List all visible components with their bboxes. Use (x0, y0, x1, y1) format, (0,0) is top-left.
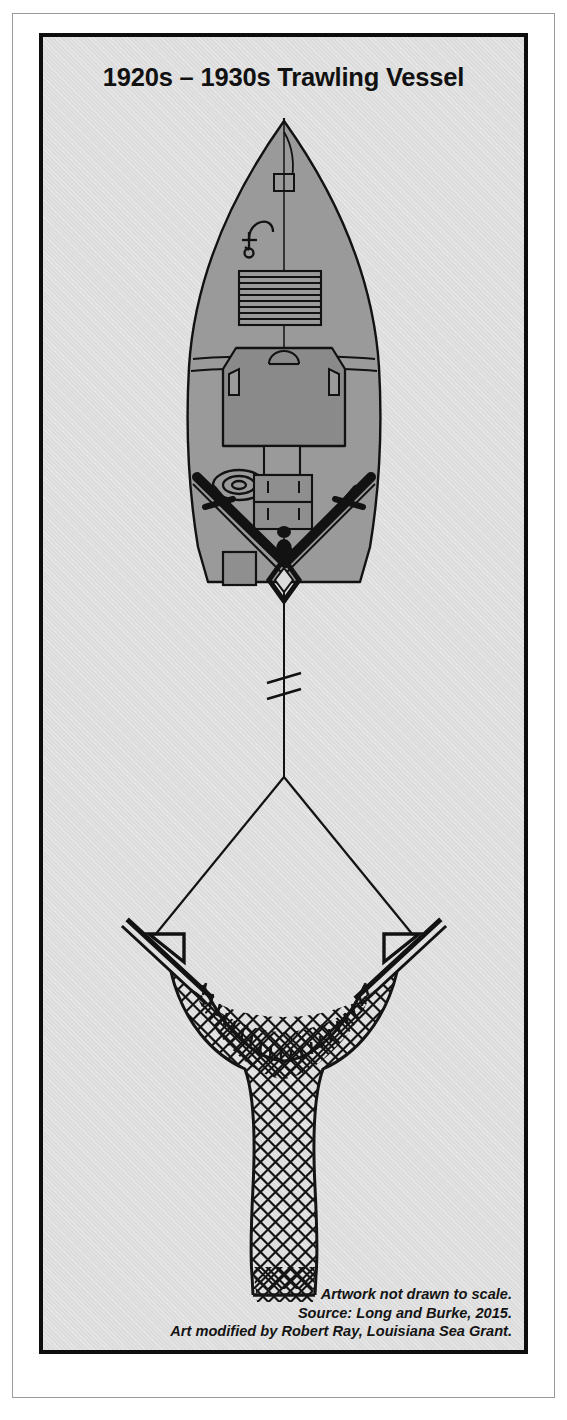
otter-board-port (123, 921, 211, 1003)
figure-plate: 1920s – 1930s Trawling Vessel (43, 37, 524, 1350)
caption-line-3: Art modified by Robert Ray, Louisiana Se… (170, 1322, 512, 1341)
figure-frame: 1920s – 1930s Trawling Vessel (39, 33, 528, 1354)
bridle-lines (155, 777, 413, 935)
deck-hatches (254, 475, 312, 529)
otter-board-starboard (357, 921, 445, 1003)
trawl-net-group (143, 957, 433, 1317)
stern-block-upper (277, 526, 291, 538)
vessel-group (187, 118, 380, 601)
bridle-starboard (284, 777, 413, 935)
engine-housing (264, 446, 300, 475)
tow-cable-group (267, 593, 301, 777)
caption-line-1: Artwork not drawn to scale. (170, 1285, 512, 1304)
bridle-port (155, 777, 284, 935)
caption-line-2: Source: Long and Burke, 2015. (170, 1304, 512, 1323)
net-body (143, 957, 433, 1307)
bow-hatch-icon (239, 271, 321, 325)
trawling-vessel-illustration (43, 37, 524, 1350)
figure-caption: Artwork not drawn to scale. Source: Long… (170, 1285, 512, 1341)
figure-page: 1920s – 1930s Trawling Vessel (0, 0, 567, 1420)
cabin-window-starboard (329, 369, 339, 395)
stern-hatch (223, 552, 256, 585)
deckhouse (223, 348, 345, 446)
cabin-window-port (229, 369, 239, 395)
